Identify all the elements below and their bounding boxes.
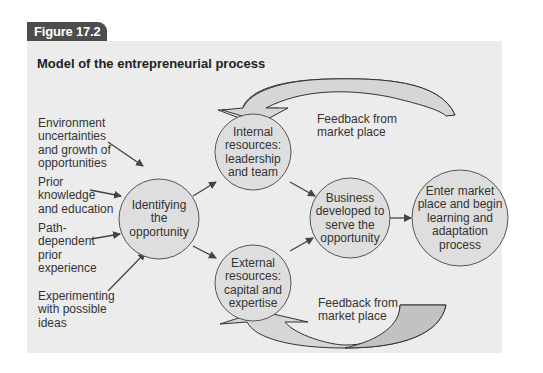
arrow-env-to-identify xyxy=(108,142,143,166)
node-identify-label: Identifying the opportunity xyxy=(119,199,199,239)
node-internal-label: Internal resources: leadership and team xyxy=(215,126,291,180)
feedback-label-top: Feedback from market place xyxy=(317,113,397,140)
feedback-label-bottom: Feedback from market place xyxy=(318,297,398,324)
node-external-label: External resources: capital and expertis… xyxy=(215,257,291,311)
input-experimenting: Experimenting with possible ideas xyxy=(38,290,115,330)
input-prior-knowledge: Prior knowledge and education xyxy=(38,176,113,216)
node-business-label: Business developed to serve the opportun… xyxy=(310,192,390,246)
node-market-label: Enter market place and begin learning an… xyxy=(412,185,508,252)
input-path-dependent: Path- dependent prior experience xyxy=(38,222,97,276)
input-environment: Environment uncertainties and growth of … xyxy=(38,117,111,171)
